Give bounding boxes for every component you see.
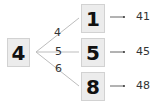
result-value: 45 [136, 45, 150, 58]
edge-label: 5 [55, 45, 62, 58]
result-value: 41 [136, 10, 150, 23]
result-value: 48 [136, 79, 150, 92]
branch-node: 1 [81, 4, 105, 33]
edge-label: 4 [54, 26, 61, 39]
edge-label: 6 [55, 62, 62, 75]
root-node: 4 [7, 38, 30, 67]
branch-node: 8 [81, 72, 105, 101]
branch-node: 5 [81, 38, 105, 67]
